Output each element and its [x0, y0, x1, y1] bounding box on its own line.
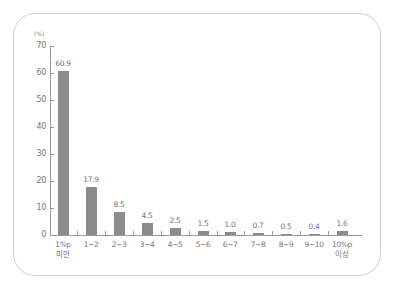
bar: [225, 232, 236, 235]
y-tick-label: 50: [36, 96, 46, 104]
bar: [142, 223, 153, 235]
x-tick: [77, 231, 78, 235]
bar-value-label: 0.7: [243, 221, 273, 230]
category-label: 2~3: [104, 240, 134, 250]
y-tick-label: 0: [41, 231, 46, 239]
y-tick: [50, 154, 54, 155]
y-tick: [50, 208, 54, 209]
y-tick-label: 40: [36, 123, 46, 131]
bar-value-label: 4.5: [132, 211, 162, 220]
x-tick: [244, 231, 245, 235]
category-label: 10%p이상: [327, 240, 357, 260]
y-tick: [50, 127, 54, 128]
bar-value-label: 1.0: [215, 220, 245, 229]
category-label: 5~6: [188, 240, 218, 250]
bar: [253, 233, 264, 235]
category-label: 8~9: [271, 240, 301, 250]
y-tick-label: 10: [36, 204, 46, 212]
category-label: 1%p미만: [48, 240, 78, 260]
bar: [170, 228, 181, 235]
category-label: 4~5: [160, 240, 190, 250]
bar-value-label: 17.9: [76, 175, 106, 184]
y-axis-unit-label: (%): [34, 30, 44, 37]
bar: [337, 231, 348, 235]
bar: [86, 187, 97, 235]
bar-value-label: 1.5: [188, 219, 218, 228]
category-label: 3~4: [132, 240, 162, 250]
bar-value-label: 60.9: [48, 59, 78, 68]
y-tick: [50, 235, 54, 236]
bar: [309, 234, 320, 235]
x-tick: [189, 231, 190, 235]
bar: [114, 212, 125, 235]
category-label: 9~10: [299, 240, 329, 250]
y-tick-label: 30: [36, 150, 46, 158]
y-axis: [50, 46, 51, 235]
x-tick: [328, 231, 329, 235]
bar-value-label: 2.5: [160, 216, 190, 225]
category-label: 1~2: [76, 240, 106, 250]
y-tick-label: 20: [36, 177, 46, 185]
y-tick: [50, 100, 54, 101]
bar: [198, 231, 209, 235]
bar-value-label: 0.5: [271, 222, 301, 231]
y-tick-label: 60: [36, 69, 46, 77]
bar-value-label: 1.6: [327, 219, 357, 228]
category-label: 7~8: [243, 240, 273, 250]
y-tick-label: 70: [36, 42, 46, 50]
y-tick: [50, 181, 54, 182]
y-tick: [50, 73, 54, 74]
x-tick: [105, 231, 106, 235]
x-tick: [133, 231, 134, 235]
x-tick: [217, 231, 218, 235]
bar: [281, 234, 292, 235]
x-axis: [50, 235, 362, 236]
bar-value-label: 0.4: [299, 222, 329, 231]
x-tick: [161, 231, 162, 235]
bar: [58, 71, 69, 235]
y-tick: [50, 46, 54, 47]
bar-value-label: 8.5: [104, 200, 134, 209]
x-tick: [272, 231, 273, 235]
x-tick: [300, 231, 301, 235]
category-label: 6~7: [215, 240, 245, 250]
